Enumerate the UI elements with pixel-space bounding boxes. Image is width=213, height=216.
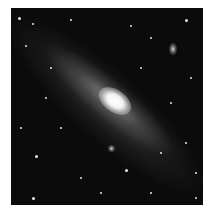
star bbox=[130, 25, 132, 27]
star bbox=[170, 102, 172, 104]
star bbox=[185, 19, 188, 22]
star bbox=[60, 127, 62, 129]
star bbox=[150, 192, 152, 194]
star bbox=[20, 127, 22, 129]
star bbox=[32, 197, 35, 200]
star bbox=[32, 23, 34, 25]
star bbox=[25, 45, 27, 47]
star bbox=[190, 77, 192, 79]
star bbox=[185, 142, 187, 144]
galaxy-photo bbox=[11, 8, 203, 205]
star bbox=[140, 67, 142, 69]
star bbox=[70, 19, 72, 21]
star bbox=[195, 172, 197, 174]
star bbox=[125, 169, 128, 172]
star bbox=[35, 155, 38, 158]
star-field bbox=[11, 8, 203, 205]
star bbox=[150, 37, 152, 39]
star bbox=[18, 17, 21, 20]
star bbox=[100, 192, 102, 194]
star bbox=[80, 177, 82, 179]
star bbox=[45, 97, 47, 99]
star bbox=[160, 152, 162, 154]
star bbox=[50, 67, 52, 69]
star bbox=[195, 197, 197, 199]
